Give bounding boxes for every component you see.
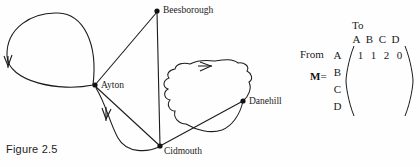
matrix-row-header-d: D [332, 98, 343, 115]
matrix-cell[interactable] [380, 98, 393, 115]
matrix-cell[interactable] [393, 64, 406, 81]
matrix-row-header-c: C [332, 81, 343, 98]
matrix-cell[interactable] [393, 98, 406, 115]
matrix-cell[interactable] [354, 98, 367, 115]
matrix-column-header-d: D [389, 33, 402, 45]
matrix-row-headers: A B C D [332, 47, 343, 115]
matrix-to-label: To [352, 19, 363, 31]
matrix-cells: 1 1 2 0 [354, 47, 406, 115]
matrix-from-label: From [300, 48, 324, 60]
matrix-cell[interactable] [354, 81, 367, 98]
figure-caption: Figure 2.5 [6, 143, 58, 155]
matrix-cell[interactable] [354, 64, 367, 81]
node-ayton[interactable] [92, 82, 97, 87]
graph-diagram: Beesborough Ayton Cidmouth Danehill Figu… [0, 0, 290, 167]
edge-beesborough-cidmouth [157, 12, 160, 146]
graph-svg [0, 0, 290, 167]
figure-container: Beesborough Ayton Cidmouth Danehill Figu… [0, 0, 420, 167]
matrix-row [354, 98, 406, 115]
matrix-cell[interactable]: 0 [393, 47, 406, 64]
matrix-equals-sign: = [320, 70, 326, 82]
matrix-cell[interactable] [367, 64, 380, 81]
node-label-ayton: Ayton [101, 81, 124, 91]
matrix-row [354, 64, 406, 81]
matrix-cell[interactable] [393, 81, 406, 98]
node-label-cidmouth: Cidmouth [164, 147, 202, 157]
matrix-column-headers: A B C D [350, 33, 402, 45]
matrix-column-header-b: B [363, 33, 376, 45]
matrix-name: M [310, 70, 320, 82]
node-beesborough[interactable] [154, 8, 159, 13]
matrix-cell[interactable] [367, 81, 380, 98]
matrix-cell[interactable]: 1 [367, 47, 380, 64]
matrix-cell[interactable]: 1 [354, 47, 367, 64]
edge-ayton-beesborough [95, 12, 157, 85]
matrix-cell[interactable] [380, 81, 393, 98]
matrix-row: 1 1 2 0 [354, 47, 406, 64]
matrix-column-header-c: C [376, 33, 389, 45]
matrix-cell[interactable] [380, 64, 393, 81]
matrix-cell[interactable]: 2 [380, 47, 393, 64]
matrix-row-header-b: B [332, 64, 343, 81]
matrix-name-equals: M= [310, 70, 327, 82]
edge-danehill-self-loop [164, 60, 252, 132]
matrix-row [354, 81, 406, 98]
matrix-body: 1 1 2 0 [346, 45, 410, 117]
node-cidmouth[interactable] [157, 143, 162, 148]
edge-ayton-self-loop [7, 13, 94, 87]
matrix-cell[interactable] [367, 98, 380, 115]
edge-cidmouth-danehill [160, 101, 243, 146]
matrix-column-header-a: A [350, 33, 363, 45]
node-danehill[interactable] [240, 98, 245, 103]
node-label-danehill: Danehill [249, 97, 282, 107]
matrix-notation: To A B C D From M= A B C D 1 [290, 0, 420, 167]
matrix-row-header-a: A [332, 47, 343, 64]
node-label-beesborough: Beesborough [163, 6, 213, 16]
